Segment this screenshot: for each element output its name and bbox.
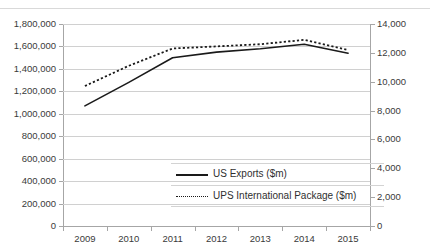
legend-item-us-exports[interactable]: US Exports ($m) [171,164,384,185]
legend-label-us-exports: US Exports ($m) [213,167,287,181]
chart-figure: 0200,000400,000600,000800,0001,000,0001,… [0,0,430,249]
legend-key-solid-icon [176,174,208,176]
legend-item-ups-international[interactable]: UPS International Package ($m) [171,186,384,207]
chart-legend: US Exports ($m) UPS International Packag… [171,163,384,207]
series-line-ups-international [85,40,348,86]
series-line-us-exports [85,44,348,106]
legend-divider-bottom [171,206,384,207]
legend-key-dotted-icon [176,196,208,197]
legend-label-ups-international: UPS International Package ($m) [213,189,356,203]
series-lines [0,0,430,249]
